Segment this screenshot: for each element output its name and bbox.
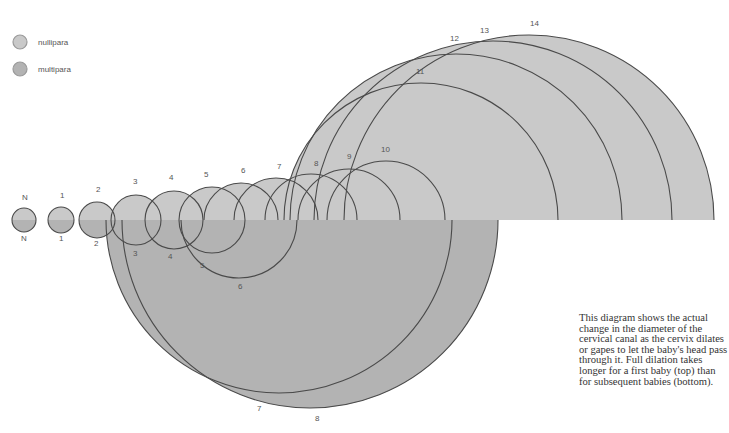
stage-label: 3 xyxy=(133,177,138,186)
stage-label: N xyxy=(22,193,28,202)
stage-label: 10 xyxy=(381,145,390,154)
stage-label: 1 xyxy=(60,191,65,200)
stage-label: 6 xyxy=(241,166,246,175)
stage-label: 4 xyxy=(168,252,173,261)
legend: nulliparamultipara xyxy=(13,35,71,76)
legend-label: multipara xyxy=(38,65,71,74)
stage-label: 6 xyxy=(238,282,243,291)
legend-swatch xyxy=(13,62,27,76)
stage-label: 3 xyxy=(133,249,138,258)
legend-label: nullipara xyxy=(38,38,69,47)
caption-text: This diagram shows the actual change in … xyxy=(579,313,729,387)
stage-label: 12 xyxy=(450,34,459,43)
stage-label: N xyxy=(21,234,27,243)
stage-label: 2 xyxy=(96,185,101,194)
stage-label: 4 xyxy=(169,173,174,182)
stage-label: 2 xyxy=(94,239,99,248)
stage-label: 8 xyxy=(314,159,319,168)
stage-label: 11 xyxy=(416,67,425,76)
stage-label: 9 xyxy=(347,152,352,161)
stage-label: 5 xyxy=(204,170,209,179)
legend-swatch xyxy=(13,35,27,49)
stage-label: 7 xyxy=(257,404,262,413)
stage-label: 14 xyxy=(530,19,539,28)
stage-label: 5 xyxy=(200,261,205,270)
stage-label: 1 xyxy=(59,234,64,243)
stage-label: 7 xyxy=(277,162,282,171)
stage-label: 8 xyxy=(315,414,320,423)
stage-label: 13 xyxy=(480,26,489,35)
